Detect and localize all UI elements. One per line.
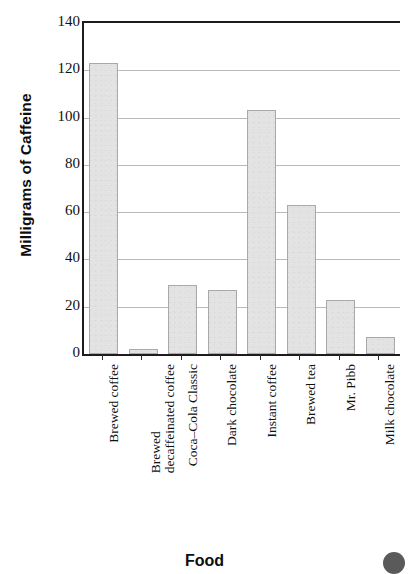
x-category-label-line: Brewed coffee bbox=[106, 364, 121, 443]
bar-milk-chocolate bbox=[366, 337, 395, 354]
x-tick-mark-4 bbox=[260, 354, 261, 360]
x-category-label-2: Coca–Cola Classic bbox=[186, 364, 200, 466]
bar-brewed-coffee bbox=[89, 63, 118, 354]
x-category-label-line: decaffeinated coffee bbox=[163, 364, 177, 473]
x-category-label-line: Coca–Cola Classic bbox=[185, 364, 200, 466]
x-category-label-line: Milk chocolate bbox=[382, 364, 397, 445]
y-tick-label-120: 120 bbox=[38, 61, 80, 76]
bar-brewed-decaffeinated-coffee bbox=[129, 349, 158, 354]
bar-coca-cola-classic bbox=[168, 285, 197, 354]
x-category-label-3: Dark chocolate bbox=[225, 364, 239, 446]
x-category-label-line: Dark chocolate bbox=[224, 364, 239, 446]
x-tick-mark-6 bbox=[339, 354, 340, 360]
x-category-label-1: Breweddecaffeinated coffee bbox=[149, 364, 177, 473]
y-tick-label-100: 100 bbox=[38, 108, 80, 123]
bar-mr-pibb bbox=[326, 300, 355, 354]
x-tick-mark-3 bbox=[220, 354, 221, 360]
bar-instant-coffee bbox=[247, 110, 276, 354]
x-category-label-5: Brewed tea bbox=[304, 364, 318, 425]
x-tick-mark-5 bbox=[299, 354, 300, 360]
bar-dark-chocolate bbox=[208, 290, 237, 354]
caffeine-bar-chart: Milligrams of Caffeine 02040608010012014… bbox=[0, 0, 409, 574]
y-tick-label-60: 60 bbox=[38, 203, 80, 218]
x-category-label-7: Milk chocolate bbox=[383, 364, 397, 445]
bar-series bbox=[84, 23, 400, 354]
x-tick-mark-2 bbox=[181, 354, 182, 360]
x-category-label-4: Instant coffee bbox=[265, 364, 279, 438]
x-category-label-line: Brewed bbox=[148, 431, 163, 473]
x-category-label-6: Mr. Pibb bbox=[344, 364, 358, 411]
y-tick-label-40: 40 bbox=[38, 250, 80, 265]
x-category-label-0: Brewed coffee bbox=[107, 364, 121, 443]
page-artifact-dot bbox=[383, 552, 405, 574]
y-tick-label-20: 20 bbox=[38, 297, 80, 312]
x-tick-mark-1 bbox=[141, 354, 142, 360]
x-category-label-line: Brewed tea bbox=[303, 364, 318, 425]
x-category-label-line: Instant coffee bbox=[264, 364, 279, 438]
y-tick-label-0: 0 bbox=[38, 345, 80, 360]
plot-area bbox=[82, 21, 400, 356]
x-axis-title: Food bbox=[0, 552, 409, 570]
y-axis-title: Milligrams of Caffeine bbox=[17, 55, 35, 295]
y-tick-label-140: 140 bbox=[38, 14, 80, 29]
y-axis-tick-labels: 020406080100120140 bbox=[38, 0, 80, 574]
x-category-label-line: Mr. Pibb bbox=[343, 364, 358, 411]
y-tick-label-80: 80 bbox=[38, 155, 80, 170]
x-tick-mark-7 bbox=[378, 354, 379, 360]
bar-brewed-tea bbox=[287, 205, 316, 354]
x-tick-mark-0 bbox=[102, 354, 103, 360]
